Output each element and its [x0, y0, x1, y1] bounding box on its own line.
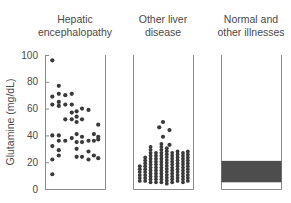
data-points	[50, 58, 100, 176]
data-point	[96, 137, 100, 141]
data-point	[75, 155, 79, 159]
data-point	[80, 135, 84, 139]
data-point	[63, 117, 67, 121]
panel-title-line2: disease	[145, 26, 181, 38]
data-point	[57, 148, 61, 152]
data-point	[57, 104, 61, 108]
panel-title-line1: Normal and	[224, 13, 278, 25]
data-point	[149, 145, 153, 149]
data-point	[70, 92, 74, 96]
panel-title-line1: Hepatic	[57, 13, 93, 25]
panel-title-line2: encephalopathy	[38, 26, 113, 38]
data-point	[181, 151, 185, 155]
data-point	[154, 151, 158, 155]
data-points	[138, 120, 190, 186]
data-point	[86, 157, 90, 161]
data-point	[57, 100, 61, 104]
data-point	[70, 102, 74, 106]
data-point	[80, 117, 84, 121]
y-tick-label: 80	[27, 76, 39, 87]
glutamine-chart: Glutamine (mg/dL) 020406080100 Hepatic e…	[0, 0, 291, 203]
data-point	[167, 128, 171, 132]
panel-other-liver-disease: Other liver disease	[134, 13, 194, 190]
data-point	[63, 93, 67, 97]
y-axis-title: Glutamine (mg/dL)	[4, 79, 16, 166]
data-point	[70, 136, 74, 140]
data-point	[50, 157, 54, 161]
data-point	[75, 109, 79, 113]
data-point	[86, 108, 90, 112]
y-axis-label: Glutamine (mg/dL)	[4, 79, 16, 166]
normal-range-band	[222, 161, 282, 182]
y-tick-label: 100	[21, 50, 38, 61]
panel-title-line2: other illnesses	[217, 26, 284, 38]
data-point	[138, 164, 142, 168]
data-point	[92, 153, 96, 157]
data-point	[50, 94, 54, 98]
data-point	[161, 120, 165, 124]
data-point	[86, 149, 90, 153]
data-point	[57, 84, 61, 88]
data-point	[63, 139, 67, 143]
y-axis-ticks: 020406080100	[21, 50, 49, 195]
data-point	[157, 125, 161, 129]
panel-normal-and-other-illnesses: Normal and other illnesses	[217, 13, 284, 190]
data-point	[86, 139, 90, 143]
data-point	[159, 142, 163, 146]
data-point	[50, 144, 54, 148]
data-point	[92, 132, 96, 136]
data-point	[70, 117, 74, 121]
data-point	[75, 140, 79, 144]
data-point	[50, 102, 54, 106]
data-point	[167, 143, 171, 147]
data-point	[96, 156, 100, 160]
data-point	[50, 58, 54, 62]
data-point	[186, 150, 190, 154]
y-tick-label: 60	[27, 103, 39, 114]
data-point	[75, 120, 79, 124]
data-point	[165, 146, 169, 150]
data-point	[92, 139, 96, 143]
data-point	[75, 115, 79, 119]
panel-hepatic-encephalopathy: Hepatic encephalopathy	[38, 13, 113, 190]
data-point	[57, 139, 61, 143]
data-point	[75, 132, 79, 136]
data-point	[70, 111, 74, 115]
y-tick-label: 20	[27, 157, 39, 168]
data-point	[63, 102, 67, 106]
data-point	[80, 155, 84, 159]
data-point	[75, 147, 79, 151]
data-point	[96, 123, 100, 127]
data-point	[57, 133, 61, 137]
normal-range-rect	[222, 161, 282, 182]
panel-title-line1: Other liver	[139, 13, 188, 25]
data-point	[50, 172, 54, 176]
y-tick-label: 40	[27, 130, 39, 141]
data-point	[57, 153, 61, 157]
data-point	[143, 155, 147, 159]
data-point	[50, 133, 54, 137]
data-point	[170, 151, 174, 155]
data-point	[80, 107, 84, 111]
data-point	[57, 92, 61, 96]
data-point	[176, 150, 180, 154]
data-point	[80, 140, 84, 144]
y-tick-label: 0	[32, 184, 38, 195]
data-point	[161, 135, 165, 139]
